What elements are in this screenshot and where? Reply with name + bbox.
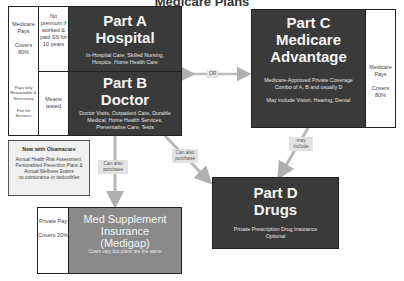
medigap-title-2: Insurance [69,225,181,237]
part-a-box: Part A Hospital In-Hospital Care, Skille… [68,6,182,72]
part-a-description: In-Hospital Care, Skilled Nursing, Hospi… [75,52,175,66]
part-c-pays-label: Medicare Pays [369,64,392,77]
medigap-coverage-column: Private Pay Covers 20% [37,207,69,274]
part-d-subtitle: Drugs [213,201,338,218]
part-c-box: Part C Medicare Advantage Medicare-Appro… [251,9,366,128]
part-b-condition-cell: Means tested [38,71,69,136]
pays-only-label: Pays only Reasonable & Necessary [10,85,36,101]
part-d-description-1: Private Prescription Drug Insurance [213,226,338,233]
part-c-title: Part C [252,14,365,31]
part-a-condition-cell: No premium if worked & paid SS for 10 ye… [38,6,69,72]
part-a-title: Part A [69,12,181,29]
part-b-subtitle: Doctor [69,91,181,108]
part-d-description-2: Optional [213,233,338,240]
can-also-purchase-d-label: Can also purchase [172,149,198,163]
part-d-box: Part D Drugs Private Prescription Drug I… [212,177,339,249]
obamacare-heading: New with Obamacare [9,146,89,152]
part-c-description-3: May include Vision, Hearing, Dental [252,97,365,104]
medigap-title-1: Med Supplement [69,213,181,225]
medicare-pays-label: Medicare Pays [12,21,35,34]
private-pay-label: Private Pay [39,218,67,224]
part-a-subtitle: Hospital [69,29,181,46]
can-also-purchase-medigap-label: Can also purchase [98,160,128,174]
covers-80-label: Covers 80% [15,42,32,55]
medigap-title-3: (Medigap) [69,237,181,249]
medigap-description: Costs vary but plans are the same [69,249,181,255]
part-c-subtitle-1: Medicare [252,31,365,48]
part-c-description-1: Medicare-Approved Private Coverage [252,77,365,84]
may-include-label: may include [289,137,313,151]
part-c-subtitle-2: Advantage [252,48,365,65]
or-label: OR [207,70,218,78]
medigap-box: Med Supplement Insurance (Medigap) Costs… [68,207,182,274]
obamacare-body: Annual Health Risk Assessment, Personali… [11,157,87,175]
obamacare-note: no coinsurance or deductibles [9,175,89,180]
fee-for-services-label: Fee for Services [15,108,31,118]
obamacare-box: New with Obamacare Annual Health Risk As… [8,140,90,196]
part-b-title: Part B [69,74,181,91]
medicare-coverage-column: Medicare Pays Covers 80% Pays only Reaso… [8,6,39,136]
part-a-condition: No premium if worked & paid SS for 10 ye… [39,13,68,47]
part-b-condition: Means tested [39,96,68,110]
part-b-box: Part B Doctor Doctor Visits, Outpatient … [68,71,182,136]
covers-20-label: Covers 20% [38,232,68,238]
part-c-covers-label: Covers 80% [372,85,389,98]
part-c-description-2: Combo of A, B and usually D [252,84,365,91]
part-c-coverage-column: Medicare Pays Covers 80% [365,9,396,128]
part-d-title: Part D [213,184,338,201]
part-b-description: Doctor Visits, Outpatient Care, Durable … [73,110,177,131]
